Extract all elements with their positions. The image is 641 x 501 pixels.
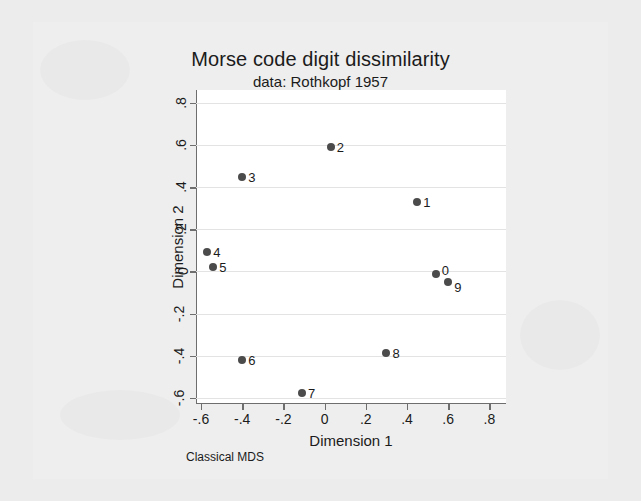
chart-note: Classical MDS	[186, 450, 264, 464]
x-tick-label: .8	[484, 411, 496, 427]
y-tick	[190, 356, 196, 357]
x-tick	[489, 404, 490, 410]
data-point-marker	[327, 143, 335, 151]
gridline	[196, 271, 506, 272]
x-tick-label: -.6	[193, 411, 209, 427]
gridline	[196, 229, 506, 230]
data-point-label: 1	[423, 194, 430, 209]
data-point-label: 5	[219, 260, 226, 275]
gridline	[196, 398, 506, 399]
y-tick-label: -.6	[171, 390, 187, 406]
x-tick	[325, 404, 326, 410]
x-tick	[283, 404, 284, 410]
data-point-marker	[432, 270, 440, 278]
gridline	[196, 314, 506, 315]
gridline	[196, 145, 506, 146]
data-point-label: 8	[392, 346, 399, 361]
y-tick-label: .8	[173, 97, 189, 109]
y-tick	[190, 314, 196, 315]
x-tick	[242, 404, 243, 410]
data-point-marker	[238, 356, 246, 364]
data-point-marker	[413, 198, 421, 206]
data-point-marker	[209, 263, 217, 271]
x-tick	[407, 404, 408, 410]
gridline	[196, 187, 506, 188]
x-tick-label: -.2	[275, 411, 291, 427]
data-point-label: 0	[442, 262, 449, 277]
y-tick	[190, 145, 196, 146]
data-point-marker	[298, 389, 306, 397]
y-tick	[190, 229, 196, 230]
data-point-marker	[382, 349, 390, 357]
y-tick	[190, 103, 196, 104]
chart-title: Morse code digit dissimilarity	[33, 48, 608, 71]
x-tick	[201, 404, 202, 410]
gridline	[196, 103, 506, 104]
y-tick	[190, 398, 196, 399]
y-axis-title: Dimension 2	[169, 205, 186, 288]
x-tick-label: .2	[360, 411, 372, 427]
data-point-label: 6	[248, 352, 255, 367]
plot-region: -.6-.4-.20.2.4.6.8 -.6-.4-.20.2.4.6.8 01…	[196, 90, 506, 404]
data-point-marker	[444, 278, 452, 286]
x-tick-label: 0	[321, 411, 329, 427]
data-point-label: 7	[308, 386, 315, 401]
y-tick-label: .6	[173, 139, 189, 151]
data-point-marker	[238, 173, 246, 181]
scanned-page: Morse code digit dissimilarity data: Rot…	[0, 0, 641, 501]
data-point-label: 3	[248, 169, 255, 184]
y-tick-label: -.2	[171, 305, 187, 321]
chart-figure: Morse code digit dissimilarity data: Rot…	[33, 22, 608, 479]
chart-subtitle: data: Rothkopf 1957	[33, 73, 608, 90]
y-tick-label: -.4	[171, 347, 187, 363]
x-tick	[366, 404, 367, 410]
x-tick-label: .6	[442, 411, 454, 427]
data-point-label: 2	[337, 140, 344, 155]
data-point-label: 4	[213, 245, 220, 260]
y-tick-label: .4	[173, 181, 189, 193]
data-point-label: 9	[454, 279, 461, 294]
x-tick-label: -.4	[234, 411, 250, 427]
x-tick	[448, 404, 449, 410]
data-point-marker	[203, 248, 211, 256]
x-tick-label: .4	[401, 411, 413, 427]
y-tick	[190, 187, 196, 188]
x-axis-title: Dimension 1	[196, 432, 506, 449]
